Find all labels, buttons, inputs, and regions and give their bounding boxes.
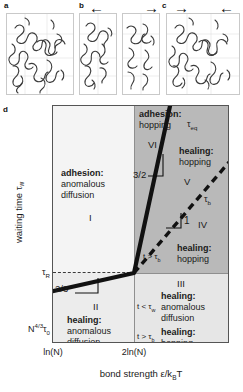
phase-diagram-plot-area: adhesion: anomalous diffusion I adhesion… <box>52 105 229 343</box>
condition-t-lt-tau-w: t < τw <box>137 302 155 315</box>
panel-b-letter: b <box>79 2 84 10</box>
condition-tw-subscript: w <box>152 307 156 313</box>
y-tick-tau-R: τR <box>6 267 50 279</box>
polymer-chains-c <box>167 14 239 94</box>
panel-c-letter: c <box>162 2 166 10</box>
region-III-title-2: healing: <box>161 327 196 338</box>
region-II-line1: anomalous <box>67 326 111 337</box>
region-I-line2: diffusion <box>61 190 94 201</box>
y-tick-N43-tau0: N4/3τ0 <box>0 322 50 336</box>
region-V-roman: V <box>184 176 190 187</box>
y-axis-symbol: τ <box>13 186 24 190</box>
region-III-title-2-text: healing: <box>161 327 196 337</box>
x-axis-label-post: T <box>176 368 182 379</box>
y-axis-subscript: w <box>18 182 25 187</box>
tau-b-label: τb <box>204 194 211 208</box>
panel-a: a <box>4 2 74 98</box>
region-II-title: healing: <box>67 315 102 326</box>
region-I-line1: anomalous <box>61 179 105 190</box>
polymer-schematic-panels: a <box>0 0 243 100</box>
region-I-title-text: adhesion: <box>61 168 104 178</box>
region-IV-title-text: healing: <box>177 243 212 253</box>
polymer-chains-b-right <box>123 14 159 94</box>
panel-b-chain-box-left <box>79 13 117 95</box>
panel-c-chain-box <box>166 13 240 95</box>
region-V-title: healing: <box>179 146 214 157</box>
region-IV-title: healing: <box>177 243 212 254</box>
condition-tw-pre: t < <box>137 302 148 311</box>
x-axis-symbol: ε/k <box>161 368 173 379</box>
region-IV-line1: hopping <box>177 254 209 265</box>
polymer-chains-a <box>7 14 73 94</box>
y-axis-label-text: waiting time <box>13 190 24 243</box>
x-tick-lnN: ln(N) <box>30 347 76 357</box>
condition-upper-subscript: b <box>158 257 161 263</box>
tau-R-subscript: R <box>46 272 50 279</box>
region-I-title: adhesion: <box>61 168 104 179</box>
region-I-roman: I <box>89 212 92 223</box>
slope-label-2-3: 2/3 <box>55 284 68 295</box>
slope-label-1: 1 <box>184 216 190 227</box>
region-VI-title: adhesion: <box>139 109 182 120</box>
N-exponent: 4/3 <box>35 322 44 329</box>
condition-tb-pre: t > <box>137 332 148 341</box>
panel-a-letter: a <box>4 2 8 10</box>
tau-eq-label: τeq <box>187 119 197 133</box>
x-axis-label-text: bond strength <box>100 368 161 379</box>
condition-t-gt-tau-b-lower: t > τb <box>137 332 155 343</box>
region-V-title-text: healing: <box>179 146 214 156</box>
region-IV-roman: IV <box>198 219 207 230</box>
region-VI-roman: VI <box>148 139 157 150</box>
tau-eq-subscript: eq <box>191 124 198 131</box>
phase-diagram-panel: d waiting time τw bond strength ε/kBT τR… <box>0 100 243 392</box>
condition-t-gt-tau-b-upper: t > τb <box>143 252 161 265</box>
region-III-roman: III <box>177 278 185 289</box>
polymer-chains-b-left <box>80 14 116 94</box>
panel-c: c → ← <box>162 2 240 98</box>
region-III-title: healing: <box>161 291 196 302</box>
region-III-line3: hopping <box>161 338 193 343</box>
region-III-line1: anomalous <box>161 302 205 313</box>
x-tick-2lnN: 2ln(N) <box>109 347 159 357</box>
panel-b-chain-box-right <box>122 13 160 95</box>
region-III-title-text: healing: <box>161 291 196 301</box>
x-axis-label: bond strength ε/kBT <box>53 368 229 381</box>
region-II-title-text: healing: <box>67 315 102 325</box>
region-II-roman: II <box>93 301 98 312</box>
y-axis-label: waiting time τw <box>13 147 26 277</box>
region-VI-line1: hopping <box>139 120 171 131</box>
panel-d-letter: d <box>3 105 8 114</box>
tau0-subscript: 0 <box>47 329 50 336</box>
panel-a-chain-box <box>6 13 74 95</box>
condition-tb-subscript: b <box>152 337 155 343</box>
panel-b: b ← → <box>79 2 159 98</box>
region-III-line2: diffusion <box>161 313 194 324</box>
region-V-line1: hopping <box>179 157 211 168</box>
condition-upper-pre: t > <box>143 252 154 261</box>
slope-label-3-2: 3/2 <box>133 170 146 181</box>
tau-b-subscript: b <box>208 199 211 206</box>
region-VI-title-text: adhesion: <box>139 109 182 119</box>
region-II-line2: diffusion <box>67 337 100 343</box>
